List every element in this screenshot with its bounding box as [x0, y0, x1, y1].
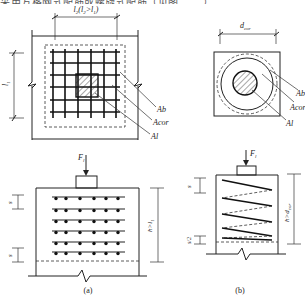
- svg-text:s: s: [6, 201, 14, 204]
- svg-text:Fl: Fl: [249, 149, 257, 159]
- svg-text:dcor: dcor: [240, 21, 251, 31]
- spiral-reinforcement: [222, 180, 272, 240]
- figure-b-plan: dcor Ab Acor Al: [214, 21, 305, 128]
- svg-text:h>l1: h>l1: [146, 219, 155, 232]
- svg-text:l1: l1: [1, 81, 11, 86]
- label-ab-b: Ab: [295, 89, 305, 98]
- loaded-area-al: [76, 74, 98, 97]
- mesh-layers: [52, 197, 125, 255]
- dimension-l2: l2(l2>l1): [52, 5, 120, 40]
- svg-text:s: s: [185, 185, 193, 188]
- label-ab-a: Ab: [156, 105, 166, 114]
- svg-text:l2(l2>l1): l2(l2>l1): [74, 5, 99, 15]
- label-acor-b: Acor: [289, 103, 305, 112]
- svg-text:h>dcor: h>dcor: [283, 204, 292, 222]
- svg-text:Fl: Fl: [77, 153, 85, 163]
- figure-a-plan: l2(l2>l1) l1: [1, 5, 169, 141]
- label-acor-a: Acor: [152, 118, 169, 127]
- svg-text:s/2: s/2: [186, 237, 192, 244]
- dimension-l1: l1: [1, 50, 24, 121]
- dimension-dcor: dcor: [218, 21, 279, 44]
- figure-a-elevation: Fl s: [6, 153, 164, 295]
- caption-a: (a): [84, 286, 93, 295]
- label-al-a: Al: [150, 132, 159, 141]
- reinforcement-diagram: l2(l2>l1) l1: [0, 0, 305, 301]
- svg-text:s: s: [6, 254, 14, 257]
- caption-b: (b): [235, 286, 245, 295]
- label-al-b: Al: [285, 119, 294, 128]
- figure-b-elevation: Fl s s/2 h>dcor (b): [185, 149, 301, 295]
